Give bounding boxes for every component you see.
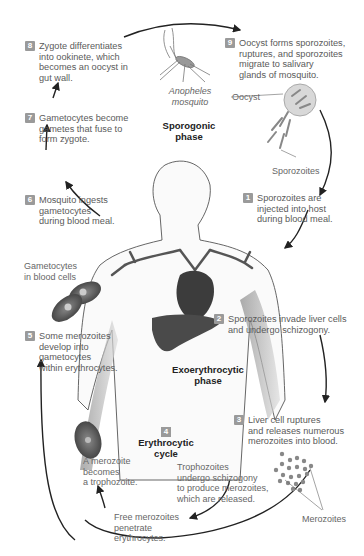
- step-badge: 4: [161, 427, 171, 437]
- mosquito-label: Anopheles mosquito: [160, 86, 220, 107]
- step-badge: 1: [243, 193, 253, 203]
- mosquito-illustration: [160, 28, 210, 82]
- step-badge: 9: [225, 38, 235, 48]
- step-8: 8 Zygote differentiates into ookinete, w…: [25, 41, 128, 83]
- step-7: 7 Gametocytes become gametes that fuse t…: [25, 113, 128, 145]
- step-badge: 8: [25, 41, 35, 51]
- step-badge: 5: [25, 331, 35, 341]
- step-badge: 3: [234, 415, 244, 425]
- step-5: 5 Some merozoites develop into gametocyt…: [25, 331, 118, 373]
- trophozoite-note: A merozoite becomes a trophozoite.: [83, 456, 138, 488]
- step-9: 9 Oocyst forms sporozoites, ruptures, an…: [225, 38, 345, 80]
- step-badge: 2: [214, 314, 224, 324]
- step-2: 2 Sporozoites invade liver cells and und…: [214, 314, 346, 335]
- sporozoites-label: Sporozoites: [272, 166, 320, 177]
- erythrocytic-cycle-label: 4 Erythrocytic cycle: [128, 425, 204, 459]
- step-6: 6 Mosquito ingests gametocytes during bl…: [25, 195, 115, 227]
- gametocytes-label: Gametocytes in blood cells: [24, 261, 77, 282]
- step-1: 1 Sporozoites are injected into host dur…: [243, 193, 333, 225]
- sporogonic-phase-label: Sporogonic phase: [148, 120, 230, 142]
- step-3: 3 Liver cell ruptures and releases numer…: [234, 415, 344, 447]
- merozoites-label: Merozoites: [302, 514, 346, 525]
- oocyst-label: Oocyst: [232, 92, 260, 103]
- free-merozoites-note: Free merozoites penetrate erythrocytes.: [114, 512, 179, 544]
- schizogony-note: Trophozoites undergo schizogony to produ…: [177, 462, 269, 504]
- exoerythrocytic-phase-label: Exoerythrocytic phase: [158, 364, 258, 386]
- step-badge: 7: [25, 113, 35, 123]
- step-badge: 6: [25, 195, 35, 205]
